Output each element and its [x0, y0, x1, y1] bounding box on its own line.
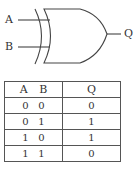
cell-a: 0: [18, 116, 34, 127]
table-row: 01 1: [5, 114, 121, 130]
table-row: 11 0: [5, 146, 121, 162]
header-inputs: A B: [5, 82, 63, 98]
xor-gate-diagram: [0, 0, 138, 75]
input-b-label: B: [5, 41, 13, 52]
header-a: A: [16, 83, 32, 96]
header-b: B: [35, 83, 51, 96]
output-q-label: Q: [124, 28, 133, 39]
cell-b: 0: [34, 132, 50, 143]
cell-q: 1: [63, 130, 121, 146]
header-q: Q: [63, 82, 121, 98]
table-header-row: A B Q: [5, 82, 121, 98]
cell-q: 0: [63, 98, 121, 114]
gate-body: [44, 9, 107, 63]
cell-b: 0: [34, 100, 50, 111]
table-row: 00 0: [5, 98, 121, 114]
cell-b: 1: [34, 148, 50, 159]
input-a-label: A: [5, 14, 13, 25]
cell-q: 1: [63, 114, 121, 130]
cell-b: 1: [34, 116, 50, 127]
cell-a: 1: [18, 132, 34, 143]
table-row: 10 1: [5, 130, 121, 146]
xor-extra-arc: [35, 9, 42, 64]
cell-a: 1: [18, 148, 34, 159]
cell-a: 0: [18, 100, 34, 111]
truth-table: A B Q 00 0 01 1 10 1 11 0: [4, 81, 121, 162]
cell-q: 0: [63, 146, 121, 162]
